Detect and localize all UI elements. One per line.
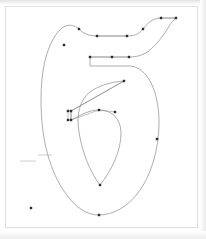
point-bowl-right[interactable]: [156, 138, 158, 140]
handle-counter-inner-bar[interactable]: [71, 110, 99, 120]
point-bar-left[interactable]: [89, 56, 91, 58]
point-bowl-bottom[interactable]: [98, 214, 100, 216]
contours-group[interactable]: [41, 18, 176, 215]
point-counter-bottom[interactable]: [99, 184, 101, 186]
point-upper-left-stem[interactable]: [63, 44, 65, 46]
glyph-canvas[interactable]: [0, 0, 206, 239]
point-terminal-right[interactable]: [175, 17, 177, 19]
point-counter-stem-top-inner[interactable]: [70, 110, 72, 112]
point-counter-top[interactable]: [123, 80, 125, 82]
point-top-shoulder-right[interactable]: [126, 35, 128, 37]
outer-contour[interactable]: [41, 18, 176, 215]
point-top-left-curve[interactable]: [78, 28, 80, 30]
inner-counter-contour[interactable]: [71, 81, 124, 185]
point-terminal-left[interactable]: [160, 17, 162, 19]
point-counter-stem-bottom-inner[interactable]: [70, 119, 72, 121]
point-counter-stem-top-outer[interactable]: [67, 110, 69, 112]
point-top-shoulder-left[interactable]: [96, 35, 98, 37]
point-stray-anchor[interactable]: [30, 207, 32, 209]
points-group[interactable]: [30, 17, 177, 216]
glyph-editor-app: six 6 Glyph Outline Editor outline: [0, 0, 206, 239]
point-bar-mid[interactable]: [111, 56, 113, 58]
guides-group: [20, 155, 52, 161]
point-top-curve-right[interactable]: [142, 28, 144, 30]
point-counter-inner-right[interactable]: [114, 111, 116, 113]
point-bar-right[interactable]: [128, 56, 130, 58]
point-counter-inner-left[interactable]: [98, 109, 100, 111]
point-counter-stem-bottom-outer[interactable]: [67, 119, 69, 121]
